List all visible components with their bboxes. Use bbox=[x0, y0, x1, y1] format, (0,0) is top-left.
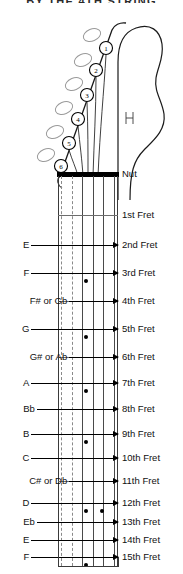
fret-label-15: 15th Fret bbox=[122, 552, 160, 562]
note-pointer-arrow-12 bbox=[31, 500, 118, 507]
note-row-7: A bbox=[0, 377, 118, 389]
note-row-4: F# or Gb bbox=[0, 295, 118, 307]
note-row-14: E bbox=[0, 534, 118, 546]
position-marker-dot bbox=[100, 509, 104, 513]
tuner-number-6: 6 bbox=[55, 160, 68, 173]
note-row-8: Bb bbox=[0, 403, 118, 415]
note-name-11: C# or Db bbox=[29, 476, 69, 486]
fret-label-10: 10th Fret bbox=[122, 453, 160, 463]
position-marker-dot bbox=[84, 335, 88, 339]
fret-label-8: 8th Fret bbox=[122, 404, 155, 414]
fret-label-3: 3rd Fret bbox=[122, 268, 155, 278]
fret-label-5: 5th Fret bbox=[122, 324, 155, 334]
note-name-9: B bbox=[23, 429, 31, 439]
note-pointer-arrow-9 bbox=[31, 431, 118, 438]
note-name-4: F# or Gb bbox=[30, 296, 70, 306]
tuner-number-1: 1 bbox=[100, 42, 113, 55]
note-pointer-arrow-3 bbox=[31, 270, 118, 277]
note-pointer-arrow-10 bbox=[31, 455, 118, 462]
tuner-number-3: 3 bbox=[81, 89, 94, 102]
fret-label-0: Nut bbox=[122, 169, 137, 179]
svg-text:1: 1 bbox=[104, 45, 108, 53]
fret-label-6: 6th Fret bbox=[122, 352, 155, 362]
note-row-10: C bbox=[0, 452, 118, 464]
note-pointer-arrow-7 bbox=[31, 380, 118, 387]
note-name-14: E bbox=[23, 535, 31, 545]
note-name-10: C bbox=[23, 453, 32, 463]
note-row-3: F bbox=[0, 267, 118, 279]
note-row-6: G# or Ab bbox=[0, 351, 118, 363]
note-row-5: G bbox=[0, 323, 118, 335]
fret-label-14: 14th Fret bbox=[122, 535, 160, 545]
nut-bar bbox=[57, 172, 119, 177]
note-name-2: E bbox=[23, 240, 31, 250]
svg-text:5: 5 bbox=[67, 140, 71, 148]
note-pointer-arrow-2 bbox=[31, 242, 118, 249]
fret-label-4: 4th Fret bbox=[122, 296, 155, 306]
note-row-12: D bbox=[0, 497, 118, 509]
svg-text:2: 2 bbox=[94, 67, 98, 75]
note-pointer-arrow-4 bbox=[69, 298, 118, 305]
note-name-7: A bbox=[23, 378, 31, 388]
note-name-12: D bbox=[23, 498, 32, 508]
fret-label-13: 13th Fret bbox=[122, 517, 160, 527]
fret-label-1: 1st Fret bbox=[122, 210, 154, 220]
position-marker-dot bbox=[84, 279, 88, 283]
note-name-8: Bb bbox=[23, 404, 37, 414]
position-marker-dot bbox=[84, 440, 88, 444]
position-marker-dot bbox=[84, 509, 88, 513]
fretboard-bottom-cap bbox=[58, 557, 119, 567]
svg-text:3: 3 bbox=[85, 92, 89, 100]
headstock-illustration: 1 2 3 4 5 6 bbox=[0, 0, 183, 200]
fret-label-9: 9th Fret bbox=[122, 429, 155, 439]
fret-label-12: 12th Fret bbox=[122, 498, 160, 508]
note-row-13: Eb bbox=[0, 516, 118, 528]
tuner-number-5: 5 bbox=[63, 137, 76, 150]
tuner-number-4: 4 bbox=[72, 113, 85, 126]
note-row-11: C# or Db bbox=[0, 475, 118, 487]
note-name-6: G# or Ab bbox=[30, 352, 70, 362]
note-pointer-arrow-8 bbox=[37, 406, 118, 413]
tuner-number-2: 2 bbox=[90, 64, 103, 77]
note-name-15: F bbox=[24, 552, 32, 562]
svg-text:6: 6 bbox=[59, 163, 63, 171]
tuner-number-group: 1 2 3 4 5 6 bbox=[55, 42, 113, 173]
fret-label-2: 2nd Fret bbox=[122, 240, 157, 250]
note-name-5: G bbox=[22, 324, 31, 334]
fret-label-7: 7th Fret bbox=[122, 378, 155, 388]
position-marker-dot bbox=[84, 389, 88, 393]
note-row-9: B bbox=[0, 428, 118, 440]
note-pointer-arrow-11 bbox=[69, 478, 118, 485]
note-pointer-arrow-6 bbox=[69, 354, 118, 361]
note-name-3: F bbox=[24, 268, 32, 278]
note-pointer-arrow-13 bbox=[37, 519, 118, 526]
fret-line-1 bbox=[58, 215, 118, 216]
note-pointer-arrow-5 bbox=[31, 326, 118, 333]
svg-text:4: 4 bbox=[76, 116, 80, 124]
note-row-2: E bbox=[0, 239, 118, 251]
note-name-13: Eb bbox=[23, 517, 37, 527]
note-pointer-arrow-14 bbox=[31, 537, 118, 544]
fret-label-11: 11th Fret bbox=[122, 476, 159, 486]
fretboard-diagram-page: BY THE 4TH STRING bbox=[0, 0, 183, 574]
